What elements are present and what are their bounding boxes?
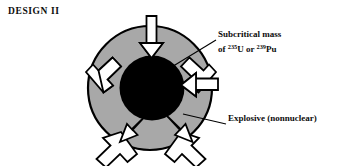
label-subcritical-of: of (218, 44, 228, 54)
label-subcritical-uranium: U or (237, 44, 256, 54)
label-subcritical-plutonium: Pu (266, 44, 277, 54)
label-subcritical-line2: of 235U or 239Pu (218, 41, 281, 56)
label-subcritical-line1: Subcritical mass (218, 29, 281, 41)
isotope-235-superscript: 235 (228, 43, 237, 50)
implosion-design-diagram (0, 0, 344, 166)
isotope-239-superscript: 239 (257, 43, 266, 50)
label-subcritical-mass: Subcritical mass of 235U or 239Pu (218, 29, 281, 55)
diagram-page: DESIGN II Subcritical mass of 235U (0, 0, 344, 166)
label-explosive: Explosive (nonnuclear) (228, 113, 317, 125)
subcritical-core (120, 56, 185, 121)
